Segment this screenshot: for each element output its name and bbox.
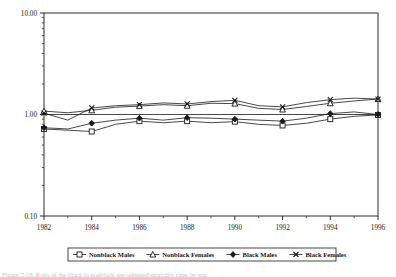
x-axis-tick-label: 1984 bbox=[85, 224, 100, 232]
legend-label: Nonblack Females bbox=[162, 251, 214, 258]
figure-caption: Figure 7-18. Ratio of the black to nonbl… bbox=[2, 270, 394, 277]
y-axis-tick-label: 10.00 bbox=[21, 10, 38, 18]
x-axis-tick-label: 1994 bbox=[323, 224, 338, 232]
mortality-ratio-line-chart: 10.001.000.10198219841986198819901992199… bbox=[0, 0, 396, 277]
x-axis-tick-label: 1986 bbox=[132, 224, 147, 232]
x-axis-tick-label: 1992 bbox=[275, 224, 290, 232]
y-axis-tick-label: 0.10 bbox=[24, 213, 37, 221]
x-axis-tick-label: 1982 bbox=[37, 224, 52, 232]
legend-item-nonblack-males[interactable]: Nonblack Males bbox=[73, 251, 135, 258]
legend-label: Nonblack Males bbox=[89, 251, 135, 258]
data-point-marker bbox=[89, 120, 94, 126]
x-axis-tick-label: 1988 bbox=[180, 224, 195, 232]
legend-marker bbox=[77, 252, 82, 257]
data-point-marker bbox=[89, 129, 94, 134]
figure-container: 10.001.000.10198219841986198819901992199… bbox=[0, 0, 396, 277]
data-point-marker bbox=[328, 117, 333, 122]
y-axis-tick-label: 1.00 bbox=[24, 111, 37, 119]
data-point-marker bbox=[328, 111, 333, 117]
x-axis-tick-label: 1996 bbox=[371, 224, 386, 232]
legend-label: Black Females bbox=[305, 251, 346, 258]
x-axis-tick-label: 1990 bbox=[228, 224, 243, 232]
legend-item-black-females[interactable]: Black Females bbox=[289, 251, 346, 258]
legend-label: Black Males bbox=[243, 251, 278, 258]
